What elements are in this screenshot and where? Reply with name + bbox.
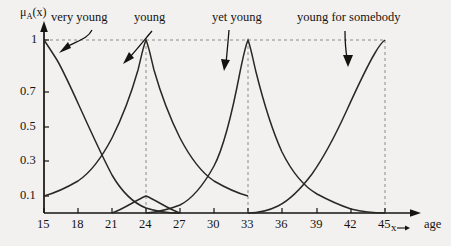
annotation-label-yet-young: yet young <box>212 11 262 24</box>
x-tick-label-42: 42 <box>344 218 357 231</box>
y-axis-title: μA(x) <box>20 6 47 21</box>
x-axis-title: age <box>424 218 441 231</box>
annotation-label-young-for-somebody: young for somebody <box>297 11 400 24</box>
chart-background <box>0 0 451 246</box>
chart-canvas <box>0 0 451 246</box>
x-tick-label-45: 45 <box>378 218 391 231</box>
x-tick-label-27: 27 <box>173 218 186 231</box>
x-tick-label-24: 24 <box>139 218 152 231</box>
x-tick-label-18: 18 <box>71 218 84 231</box>
y-tick-label-0-3: 0.3 <box>20 154 36 167</box>
x-variable-label: x <box>391 222 397 233</box>
y-tick-label-1: 1 <box>31 33 37 46</box>
x-tick-label-36: 36 <box>275 218 288 231</box>
x-tick-label-30: 30 <box>207 218 220 231</box>
y-tick-label-0-7: 0.7 <box>20 85 36 98</box>
x-tick-label-33: 33 <box>241 218 254 231</box>
x-tick-label-39: 39 <box>310 218 323 231</box>
x-tick-label-15: 15 <box>37 218 50 231</box>
x-tick-label-21: 21 <box>105 218 118 231</box>
y-tick-label-0-1: 0.1 <box>20 189 36 202</box>
y-axis-title-tail: (x) <box>33 5 47 19</box>
y-tick-label-0-5: 0.5 <box>20 120 36 133</box>
annotation-label-very-young: very young <box>51 11 108 24</box>
annotation-label-young: young <box>134 11 165 24</box>
